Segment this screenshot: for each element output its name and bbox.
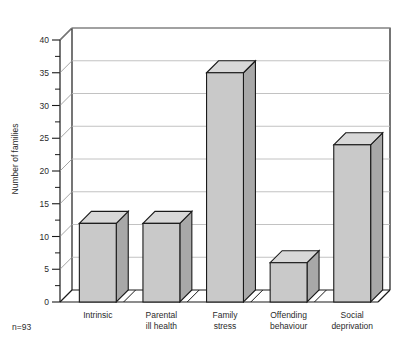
y-tick-label: 25 [40,133,50,143]
x-category-label: Offending [270,310,307,320]
y-tick-depth-connector [60,126,72,138]
x-category-label: deprivation [331,321,373,331]
sample-size-note: n=93 [12,322,31,332]
floor-divider [60,290,72,302]
x-axis-categories: IntrinsicParentalill healthFamilystressO… [83,310,373,331]
y-tick-depth-connector [60,28,72,40]
y-tick-label: 0 [44,297,49,307]
x-category-label: behaviour [270,321,308,331]
y-tick-label: 30 [40,101,50,111]
bar-chart-svg: 0510152025303540 Number of families Intr… [0,0,416,342]
y-tick-label: 35 [40,68,50,78]
y-axis-title: Number of families [10,124,20,195]
bar-column [143,211,192,302]
x-category-label: Parental [146,310,178,320]
x-category-label: stress [214,321,237,331]
y-tick-depth-connector [60,225,72,237]
y-tick-depth-connector [60,192,72,204]
y-tick-label: 20 [40,166,50,176]
y-tick-depth-connector [60,159,72,171]
y-tick-depth-connector [60,257,72,269]
bar-column [207,61,256,302]
y-tick-depth-connector [60,61,72,73]
y-tick-label: 40 [40,35,50,45]
y-tick-label: 10 [40,232,50,242]
bar-column [270,251,319,302]
y-tick-depth-connector [60,94,72,106]
x-category-label: Family [212,310,238,320]
x-category-label: Intrinsic [83,310,113,320]
chart-figure: 0510152025303540 Number of families Intr… [0,0,416,342]
y-tick-label: 5 [44,264,49,274]
y-axis-ticks: 0510152025303540 [40,28,72,307]
x-category-label: Social [341,310,364,320]
bar-column [334,133,383,302]
x-category-label: ill health [146,321,177,331]
y-tick-label: 15 [40,199,50,209]
bar-column [79,211,128,302]
